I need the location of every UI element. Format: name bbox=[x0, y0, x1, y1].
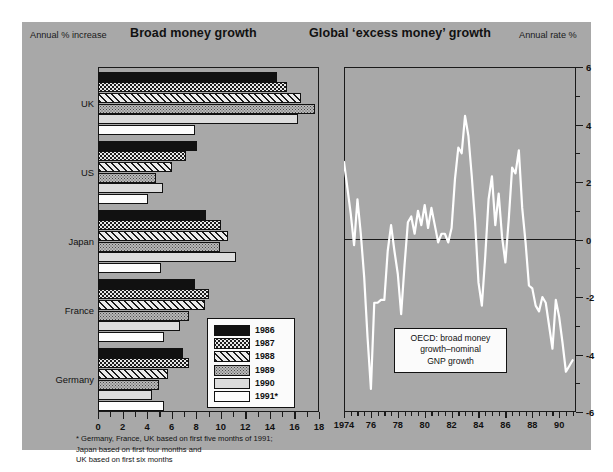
line-chart-annotation-box: OECD: broad money growth–nominal GNP gro… bbox=[394, 328, 507, 373]
y-tick-label-4: 4 bbox=[586, 119, 591, 130]
x-tick bbox=[209, 412, 210, 417]
bar-japan-1991 bbox=[98, 263, 161, 273]
bar-uk-1990 bbox=[98, 114, 298, 124]
annotation-line-2: growth–nominal bbox=[397, 344, 504, 355]
x-tick bbox=[465, 412, 466, 416]
right-chart-title: Global ‘excess money’ growth bbox=[309, 26, 491, 40]
x-tick bbox=[405, 412, 406, 416]
line-chart-y-axis bbox=[576, 67, 584, 412]
x-tick bbox=[512, 412, 513, 416]
x-tick-label-90: 90 bbox=[554, 420, 564, 430]
x-tick bbox=[319, 412, 320, 419]
x-tick bbox=[472, 412, 473, 416]
x-tick bbox=[566, 412, 567, 416]
x-tick-label-8: 8 bbox=[194, 421, 199, 432]
legend-item-1990: 1990 bbox=[214, 378, 290, 389]
line-chart-x-axis bbox=[344, 412, 576, 419]
bar-germany-1990 bbox=[98, 390, 152, 400]
bar-germany-1986 bbox=[98, 348, 183, 358]
x-tick-label-80: 80 bbox=[420, 420, 430, 430]
x-tick bbox=[282, 412, 283, 417]
legend-swatch-1986 bbox=[214, 325, 250, 336]
legend-swatch-1987 bbox=[214, 338, 250, 349]
left-chart-title: Broad money growth bbox=[130, 26, 257, 40]
y-tick bbox=[576, 211, 580, 212]
bar-japan-1986 bbox=[98, 210, 206, 220]
y-tick bbox=[576, 355, 583, 356]
x-tick bbox=[233, 412, 234, 417]
x-tick bbox=[135, 412, 136, 417]
legend-label-1987: 1987 bbox=[255, 338, 275, 349]
y-tick bbox=[576, 412, 583, 413]
bar-chart-x-axis bbox=[98, 412, 319, 419]
category-label-us: US bbox=[26, 167, 99, 178]
x-tick bbox=[425, 412, 426, 418]
x-tick-label-6: 6 bbox=[169, 421, 174, 432]
x-tick-label-10: 10 bbox=[216, 421, 226, 432]
x-tick-label-2: 2 bbox=[120, 421, 125, 432]
bar-uk-1991 bbox=[98, 125, 195, 135]
x-tick bbox=[532, 412, 533, 418]
category-label-germany: Germany bbox=[26, 374, 99, 385]
footnote-line-2: Japan based on first four months and bbox=[76, 445, 336, 456]
legend-label-1986: 1986 bbox=[255, 325, 275, 336]
x-tick bbox=[452, 412, 453, 418]
category-label-uk: UK bbox=[26, 98, 99, 109]
category-label-japan: Japan bbox=[26, 236, 99, 247]
bar-us-1989 bbox=[98, 173, 156, 183]
y-tick bbox=[576, 326, 580, 327]
y-tick bbox=[576, 297, 583, 298]
y-tick bbox=[576, 268, 580, 269]
x-tick bbox=[492, 412, 493, 416]
x-tick bbox=[505, 412, 506, 418]
x-tick bbox=[357, 412, 358, 416]
x-tick bbox=[546, 412, 547, 416]
y-tick bbox=[576, 67, 583, 68]
x-tick bbox=[147, 412, 148, 419]
y-tick bbox=[576, 182, 583, 183]
legend-item-1987: 1987 bbox=[214, 338, 290, 349]
x-tick-label-16: 16 bbox=[289, 421, 299, 432]
figure-panel: Annual % increase Broad money growth Glo… bbox=[22, 22, 591, 450]
x-tick bbox=[159, 412, 160, 417]
bar-france-1990 bbox=[98, 321, 180, 331]
bar-us-1987 bbox=[98, 151, 186, 161]
x-tick bbox=[378, 412, 379, 416]
bar-us-1991 bbox=[98, 194, 148, 204]
bar-japan-1988 bbox=[98, 231, 228, 241]
y-tick bbox=[576, 153, 580, 154]
x-tick bbox=[110, 412, 111, 417]
bar-uk-1987 bbox=[98, 82, 287, 92]
x-tick-label-1974: 1974 bbox=[334, 420, 354, 430]
x-tick bbox=[526, 412, 527, 416]
footnote-line-3: UK based on first six months bbox=[76, 455, 336, 466]
x-tick bbox=[245, 412, 246, 419]
x-tick bbox=[270, 412, 271, 419]
y-tick-label-2: 2 bbox=[586, 177, 591, 188]
x-tick-label-78: 78 bbox=[393, 420, 403, 430]
x-tick bbox=[98, 412, 99, 419]
bar-france-1986 bbox=[98, 279, 195, 289]
x-tick bbox=[123, 412, 124, 419]
legend-item-1989: 1989 bbox=[214, 365, 290, 376]
x-tick-label-4: 4 bbox=[145, 421, 150, 432]
bar-us-1986 bbox=[98, 141, 197, 151]
legend-swatch-1990 bbox=[214, 378, 250, 389]
x-tick bbox=[478, 412, 479, 418]
footnote-line-1: * Germany, France, UK based on first fiv… bbox=[76, 434, 336, 445]
chart-legend: 198619871988198919901991* bbox=[207, 318, 295, 408]
x-tick bbox=[559, 412, 560, 418]
x-tick bbox=[196, 412, 197, 419]
x-tick bbox=[384, 412, 385, 416]
annotation-line-1: OECD: broad money bbox=[397, 333, 504, 344]
x-tick bbox=[445, 412, 446, 416]
x-tick bbox=[539, 412, 540, 416]
bar-germany-1989 bbox=[98, 380, 159, 390]
y-tick-label--2: -2 bbox=[586, 292, 594, 303]
bar-france-1989 bbox=[98, 311, 189, 321]
x-tick bbox=[184, 412, 185, 417]
y-tick bbox=[576, 240, 583, 241]
x-tick bbox=[485, 412, 486, 416]
x-tick bbox=[294, 412, 295, 419]
bar-germany-1987 bbox=[98, 358, 189, 368]
